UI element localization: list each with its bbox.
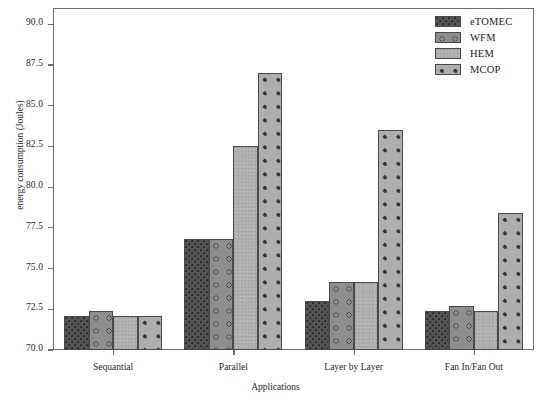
y-axis-tick-label: 72.5	[26, 302, 43, 312]
legend-label-etomec: eTOMEC	[470, 16, 512, 27]
y-axis-tick-label: 90.0	[26, 17, 43, 27]
y-axis-tick-label: 87.5	[26, 58, 43, 68]
y-axis-tick-mark	[48, 146, 53, 147]
legend-label-wfm: WFM	[470, 32, 496, 43]
legend-label-hem: HEM	[470, 48, 494, 59]
y-axis-tick-mark	[48, 64, 53, 65]
y-axis-tick-mark	[48, 187, 53, 188]
bar-etomec-2	[305, 301, 330, 350]
bar-etomec-1	[184, 239, 209, 350]
bar-etomec-0	[64, 316, 89, 350]
y-axis-title: energy consumption (Joules)	[15, 55, 25, 255]
chart-legend: eTOMECWFMHEMMCOP	[433, 12, 514, 78]
x-axis-tick-mark	[233, 350, 234, 355]
x-axis-group-label: Fan In/Fan Out	[445, 362, 503, 372]
bar-wfm-3	[449, 306, 474, 350]
x-axis-tick-mark	[354, 350, 355, 355]
x-axis-group-label: Sequantial	[93, 362, 133, 372]
bar-etomec-3	[425, 311, 450, 350]
bar-hem-1	[233, 146, 258, 350]
y-axis-tick-mark	[48, 105, 53, 106]
bar-wfm-0	[89, 311, 114, 350]
legend-swatch-wfm	[435, 32, 461, 43]
x-axis-group-label: Layer by Layer	[324, 362, 383, 372]
y-axis-tick-mark	[48, 268, 53, 269]
y-axis-tick-mark	[48, 24, 53, 25]
y-axis-tick-mark	[48, 227, 53, 228]
bar-mcop-1	[258, 73, 283, 350]
y-axis-tick-label: 75.0	[26, 262, 43, 272]
legend-item-hem: HEM	[435, 45, 512, 61]
y-axis-tick-label: 70.0	[26, 343, 43, 353]
legend-label-mcop: MCOP	[470, 64, 501, 75]
legend-item-wfm: WFM	[435, 29, 512, 45]
bar-wfm-2	[329, 282, 354, 350]
legend-swatch-etomec	[435, 16, 461, 27]
bar-mcop-2	[378, 130, 403, 350]
legend-item-etomec: eTOMEC	[435, 13, 512, 29]
x-axis-group-label: Parallel	[219, 362, 248, 372]
bar-mcop-3	[498, 213, 523, 350]
x-axis-tick-mark	[113, 350, 114, 355]
y-axis-tick-mark	[48, 349, 53, 350]
bar-hem-3	[474, 311, 499, 350]
bar-hem-0	[113, 316, 138, 350]
bar-hem-2	[354, 282, 379, 350]
legend-swatch-hem	[435, 48, 461, 59]
y-axis-tick-label: 85.0	[26, 99, 43, 109]
bar-mcop-0	[138, 316, 163, 350]
y-axis-tick-label: 77.5	[26, 221, 43, 231]
y-axis-tick-label: 82.5	[26, 139, 43, 149]
legend-swatch-mcop	[435, 64, 461, 75]
y-axis-tick-label: 80.0	[26, 180, 43, 190]
x-axis-tick-mark	[474, 350, 475, 355]
bar-wfm-1	[209, 239, 234, 350]
x-axis-title: Applications	[0, 382, 551, 392]
y-axis-tick-mark	[48, 309, 53, 310]
bar-chart-figure: 70.072.575.077.580.082.585.087.590.0 ene…	[0, 0, 551, 402]
legend-item-mcop: MCOP	[435, 61, 512, 77]
